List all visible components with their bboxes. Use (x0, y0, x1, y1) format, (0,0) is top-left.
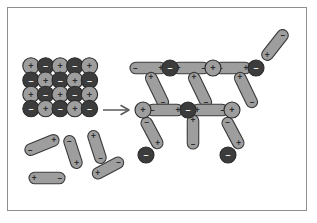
lattice-ion-charge: – (43, 90, 48, 100)
network-rod: +– (187, 115, 199, 149)
lattice-ion-charge: + (72, 104, 77, 114)
free-rod-end-a: + (32, 174, 37, 183)
free-rod: –+ (23, 133, 61, 157)
lattice-ion-charge: + (28, 61, 33, 71)
network-node: – (162, 60, 178, 76)
free-rod: +– (86, 129, 108, 165)
free-rod: +– (29, 172, 65, 184)
network-rod-end-a: + (238, 73, 243, 82)
network-node: + (135, 102, 151, 118)
free-rods-group: –+–++–+–+– (23, 129, 126, 184)
network-rod-end-a: + (149, 73, 154, 82)
free-rod-end-b: – (58, 174, 63, 183)
lattice-ion-charge: – (87, 76, 92, 86)
network-node: + (205, 60, 221, 76)
network-node-charge: – (167, 63, 172, 73)
network-rod-end-a: + (192, 73, 197, 82)
free-rod-end-b: + (52, 136, 57, 145)
lattice-ion-charge: + (28, 90, 33, 100)
network-rod: +– (259, 27, 290, 63)
free-rod: –+ (62, 134, 84, 170)
network-node-charge: – (225, 150, 230, 160)
free-rod-end-a: + (95, 169, 100, 178)
network-node-charge: – (185, 105, 190, 115)
network-node-charge: – (143, 150, 148, 160)
network-rod-end-a: – (133, 64, 138, 73)
lattice-group: +–+–+–+–+–+–+–+–+–+– (23, 58, 98, 117)
diagram-figure: +–+–+–+–+–+–+–+–+–+– –+–++–+–+– –++––++–… (0, 0, 317, 223)
lattice-ion-charge: + (43, 76, 48, 86)
network-node: – (220, 147, 236, 163)
lattice-ion-charge: – (28, 104, 33, 114)
lattice-ion-charge: – (72, 61, 77, 71)
lattice-ion-charge: – (58, 104, 63, 114)
network-rod-end-b: – (281, 31, 286, 40)
lattice-ion-charge: + (72, 76, 77, 86)
network-node: – (180, 102, 196, 118)
network-rod-end-a: + (265, 51, 270, 60)
lattice-ion-charge: + (58, 61, 63, 71)
network-node-charge: + (140, 105, 145, 115)
lattice-ion-charge: – (58, 76, 63, 86)
network-node: – (248, 60, 264, 76)
lattice-ion: – (52, 100, 68, 116)
lattice-ion-charge: – (28, 76, 33, 86)
network-rod-end-b: – (191, 140, 196, 149)
lattice-ion: + (67, 100, 83, 116)
free-rod-end-b: – (116, 158, 121, 167)
network-node: + (224, 102, 240, 118)
lattice-ion-charge: – (43, 61, 48, 71)
free-rod-end-a: + (91, 132, 96, 141)
network-rod-end-b: + (236, 139, 241, 148)
reaction-arrow (103, 106, 129, 115)
network-rod-end-b: – (250, 98, 255, 107)
network-rod: –+ (139, 115, 165, 151)
network-rod: +– (192, 104, 228, 116)
network-node-charge: + (229, 105, 234, 115)
network-rod: –+ (220, 115, 246, 151)
network-rod: –+ (130, 62, 166, 74)
network-rod: –+ (147, 104, 183, 116)
network-node: – (138, 147, 154, 163)
lattice-ion-charge: + (43, 104, 48, 114)
free-rod-end-b: + (74, 159, 79, 168)
lattice-ion-charge: + (58, 90, 63, 100)
network-rod-end-a: – (144, 118, 149, 127)
lattice-ion-charge: + (87, 90, 92, 100)
lattice-ion: – (23, 100, 39, 116)
free-rod-end-a: – (28, 146, 33, 155)
diagram-canvas: +–+–+–+–+–+–+–+–+–+– –+–++–+–+– –++––++–… (0, 0, 317, 223)
lattice-ion-charge: – (72, 90, 77, 100)
arrow-group (103, 106, 129, 115)
network-rod-end-b: + (155, 139, 160, 148)
network-node-charge: – (253, 63, 258, 73)
lattice-ion: + (37, 100, 53, 116)
lattice-ion-charge: – (87, 104, 92, 114)
network-rod-end-a: – (225, 118, 230, 127)
free-rod-end-b: – (98, 154, 103, 163)
network-group: –++––++–+–+–+––++––++––+–+–+–+–– (130, 27, 291, 163)
lattice-ion-charge: + (87, 61, 92, 71)
network-node-charge: + (210, 63, 215, 73)
lattice-ion: – (81, 100, 97, 116)
free-rod-end-a: – (67, 137, 72, 146)
